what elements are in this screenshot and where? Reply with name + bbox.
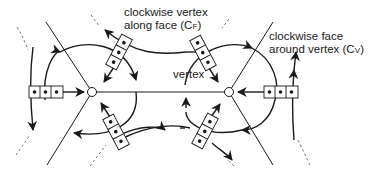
left-vertex-circle <box>88 88 97 97</box>
left-arc-lower <box>74 92 136 134</box>
label-vertex: vertex <box>173 68 204 81</box>
triple-box-top-right <box>190 35 217 71</box>
label-clockwise-face: clockwise face around vertex (CV) <box>269 30 364 57</box>
label-clockwise-vertex: clockwise vertex along face (CF) <box>124 6 208 33</box>
dashed-lead-top-center <box>91 15 100 27</box>
right-arc-lower <box>242 100 275 130</box>
dashed-lead-bottom-right <box>228 160 234 166</box>
right-outer-arc <box>293 70 295 140</box>
dashed-lead-bottom-left <box>16 135 30 155</box>
label-cv-line2: around vertex (CV) <box>269 43 364 57</box>
triple-box-left <box>29 86 63 98</box>
dashed-lead-top-left <box>17 27 28 50</box>
triple-box-right <box>264 86 298 98</box>
edge-left-lower <box>47 92 92 165</box>
right-vertex-circle <box>225 88 234 97</box>
dashed-lead-right <box>298 140 310 165</box>
label-cv-line1: clockwise face <box>269 30 364 43</box>
label-cf-line2: along face (CF) <box>124 19 208 33</box>
label-cf-line1: clockwise vertex <box>124 6 208 19</box>
edge-right-upper <box>229 22 273 92</box>
triple-box-bottom-right <box>192 113 219 149</box>
dashed-lead-bottom-center <box>90 145 106 166</box>
dashed-lead-top-right <box>222 19 229 28</box>
